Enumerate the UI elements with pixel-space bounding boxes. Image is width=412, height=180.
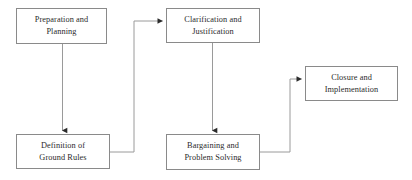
node-preparation-and-planning: Preparation and Planning	[16, 8, 107, 44]
node-clarification-and-justification: Clarification and Justification	[166, 8, 260, 43]
node-label: Bargaining and Problem Solving	[181, 140, 244, 164]
node-closure-and-implementation: Closure and Implementation	[305, 66, 398, 101]
node-label: Closure and Implementation	[322, 72, 382, 96]
node-label: Definition of Ground Rules	[36, 140, 89, 164]
connector-bargaining-to-closure	[260, 79, 302, 152]
node-label: Preparation and Planning	[32, 14, 92, 38]
node-bargaining-and-problem-solving: Bargaining and Problem Solving	[166, 134, 260, 170]
node-definition-of-ground-rules: Definition of Ground Rules	[16, 134, 110, 169]
diagram-canvas: Preparation and Planning Clarification a…	[0, 0, 412, 180]
node-label: Clarification and Justification	[181, 14, 244, 38]
connector-definition-to-clarification	[110, 21, 163, 152]
